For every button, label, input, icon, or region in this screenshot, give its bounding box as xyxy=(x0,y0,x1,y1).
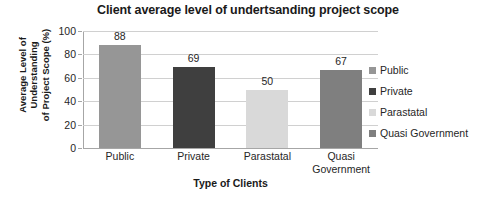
y-axis-tick-label: 80 xyxy=(46,49,76,59)
legend-item[interactable]: Parastatal xyxy=(369,102,494,123)
x-axis-tick-label-line: Private xyxy=(157,150,231,163)
bar-value-label: 67 xyxy=(335,56,347,67)
y-axis-tick-mark xyxy=(78,101,82,102)
bar-group: 88 xyxy=(83,31,157,148)
bar xyxy=(173,67,215,148)
y-axis-title-line-2: Understanding xyxy=(28,41,40,108)
y-axis-title-line-1: Average Level of xyxy=(17,37,29,113)
legend-swatch-icon xyxy=(369,88,376,95)
legend-swatch-icon xyxy=(369,109,376,116)
bar xyxy=(246,90,288,149)
bar xyxy=(99,45,141,148)
bar-chart: Client average level of undertsanding pr… xyxy=(0,0,496,200)
x-axis-baseline xyxy=(83,148,378,149)
x-axis-tick-label: QuasiGovernment xyxy=(304,150,378,175)
legend-item-label: Parastatal xyxy=(380,107,427,118)
x-axis-title: Type of Clients xyxy=(83,177,378,189)
bar-group: 67 xyxy=(304,31,378,148)
bar-group: 69 xyxy=(157,31,231,148)
y-axis-tick-mark xyxy=(78,54,82,55)
x-axis-tick-label-line: Government xyxy=(304,163,378,176)
x-axis-tick-label-line: Quasi xyxy=(304,150,378,163)
chart-legend: PublicPrivateParastatalQuasi Government xyxy=(369,60,494,144)
y-axis-tick-mark xyxy=(78,78,82,79)
bar xyxy=(320,70,362,148)
y-axis-tick-labels: 020406080100 xyxy=(46,31,76,148)
y-axis-tick-label: 20 xyxy=(46,120,76,130)
x-axis-tick-label: Parastatal xyxy=(231,150,305,163)
chart-title: Client average level of undertsanding pr… xyxy=(0,3,496,17)
y-axis-tick-mark xyxy=(78,125,82,126)
legend-item-label: Private xyxy=(380,86,413,97)
x-axis-tick-label: Private xyxy=(157,150,231,163)
bar-value-label: 69 xyxy=(188,53,200,64)
legend-swatch-icon xyxy=(369,67,376,74)
y-axis-tick-label: 100 xyxy=(46,26,76,36)
legend-item[interactable]: Public xyxy=(369,60,494,81)
bar-group: 50 xyxy=(231,31,305,148)
plot-area: 88695067 xyxy=(83,31,378,148)
x-axis-tick-label: Public xyxy=(83,150,157,163)
y-axis-tick-label: 40 xyxy=(46,96,76,106)
bar-value-label: 50 xyxy=(262,76,274,87)
y-axis-tick-label: 0 xyxy=(46,143,76,153)
legend-item[interactable]: Private xyxy=(369,81,494,102)
legend-swatch-icon xyxy=(369,130,376,137)
legend-item-label: Public xyxy=(380,65,409,76)
legend-item[interactable]: Quasi Government xyxy=(369,123,494,144)
y-axis-tick-mark xyxy=(78,148,82,149)
bars-layer: 88695067 xyxy=(83,31,378,148)
y-axis-tick-label: 60 xyxy=(46,73,76,83)
bar-value-label: 88 xyxy=(114,31,126,42)
x-axis-tick-label-line: Public xyxy=(83,150,157,163)
legend-item-label: Quasi Government xyxy=(380,128,468,139)
x-axis-tick-label-line: Parastatal xyxy=(231,150,305,163)
y-axis-tick-mark xyxy=(78,31,82,32)
